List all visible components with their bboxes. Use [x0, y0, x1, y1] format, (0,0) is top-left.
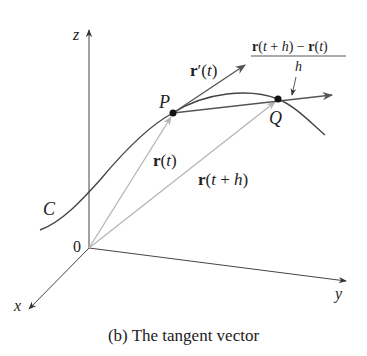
label-pointer-arrow	[292, 77, 296, 95]
curve-c	[40, 93, 325, 230]
point-q-label: Q	[269, 108, 282, 128]
curve-label-c: C	[43, 199, 56, 219]
point-p-label: P	[158, 92, 170, 112]
difference-quotient-numerator: r(t + h) − r(t)	[252, 39, 328, 55]
difference-quotient-denominator: h	[295, 59, 302, 74]
point-p	[170, 110, 177, 117]
point-q	[275, 96, 282, 103]
r-t-plus-h-label: r(t + h)	[198, 170, 248, 189]
diagram-canvas: z x y 0 C P Q r′(t) r(t) r(t + h) r(t + …	[0, 0, 367, 356]
tangent-vector-figure: z x y 0 C P Q r′(t) r(t) r(t + h) r(t + …	[0, 0, 367, 356]
z-axis-label: z	[72, 26, 80, 43]
y-axis	[89, 248, 346, 281]
x-axis	[29, 248, 89, 309]
vector-r-t	[89, 117, 171, 248]
origin-label: 0	[73, 238, 81, 255]
difference-quotient-label: r(t + h) − r(t) h	[251, 39, 346, 74]
x-axis-label: x	[13, 297, 21, 314]
r-t-label: r(t)	[153, 151, 177, 170]
figure-caption: (b) The tangent vector	[0, 326, 367, 346]
y-axis-label: y	[333, 285, 343, 303]
r-prime-label: r′(t)	[190, 61, 217, 80]
